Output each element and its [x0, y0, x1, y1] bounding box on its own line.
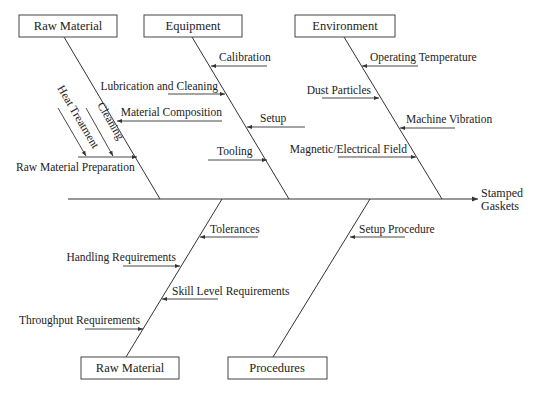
effect-line-2: Gaskets [481, 199, 519, 213]
fishbone-diagram: Stamped Gaskets Raw Material Material Co… [0, 0, 536, 393]
cause-label: Throughput Requirements [19, 314, 141, 327]
category-label: Environment [312, 19, 378, 33]
cause-label: Operating Temperature [370, 51, 477, 64]
effect-line-1: Stamped [481, 186, 523, 200]
cause-label: Handling Requirements [66, 251, 176, 264]
cause-magnetic-electrical-field: Magnetic/Electrical Field [290, 143, 416, 157]
cause-skill-level-requirements: Skill Level Requirements [162, 285, 290, 299]
sub-cause-heat-treatment: Heat Treatment [55, 83, 102, 156]
cause-calibration: Calibration [211, 51, 271, 66]
category-environment: Environment Operating Temperature Dust P… [290, 15, 493, 199]
cause-label: Tolerances [210, 223, 260, 235]
cause-setup-procedure: Setup Procedure [350, 223, 435, 237]
cause-label: Dust Particles [307, 84, 372, 96]
cause-lubrication-and-cleaning: Lubrication and Cleaning [100, 80, 225, 94]
cause-dust-particles: Dust Particles [307, 84, 379, 98]
effect-label: Stamped Gaskets [481, 186, 523, 213]
branch-line [126, 199, 222, 357]
cause-label: Skill Level Requirements [172, 285, 290, 298]
category-label: Procedures [249, 361, 305, 375]
cause-label: Tooling [217, 145, 253, 158]
category-label: Equipment [166, 19, 221, 33]
cause-handling-requirements: Handling Requirements [66, 251, 180, 266]
cause-label: Setup [260, 112, 286, 125]
cause-operating-temperature: Operating Temperature [362, 51, 477, 66]
category-label: Raw Material [34, 19, 103, 33]
sub-cause-label: Heat Treatment [55, 83, 102, 151]
category-raw-material-top: Raw Material Material Composition Raw Ma… [16, 15, 222, 199]
cause-machine-vibration: Machine Vibration [400, 113, 493, 128]
cause-tolerances: Tolerances [200, 223, 260, 237]
category-label: Raw Material [96, 361, 165, 375]
cause-label: Setup Procedure [359, 223, 435, 236]
cause-label: Machine Vibration [406, 113, 493, 125]
category-raw-material-bottom: Raw Material Tolerances Handling Require… [19, 199, 290, 379]
cause-label: Calibration [219, 51, 271, 63]
cause-label: Material Composition [121, 106, 223, 119]
cause-label: Raw Material Preparation [16, 161, 135, 174]
cause-label: Magnetic/Electrical Field [290, 143, 407, 156]
cause-throughput-requirements: Throughput Requirements [19, 314, 143, 329]
cause-material-composition: Material Composition [117, 106, 222, 121]
cause-setup: Setup [247, 112, 305, 127]
cause-label: Lubrication and Cleaning [100, 80, 218, 93]
cause-raw-material-preparation: Raw Material Preparation Heat Treatment … [16, 83, 137, 174]
branch-line [273, 199, 370, 357]
